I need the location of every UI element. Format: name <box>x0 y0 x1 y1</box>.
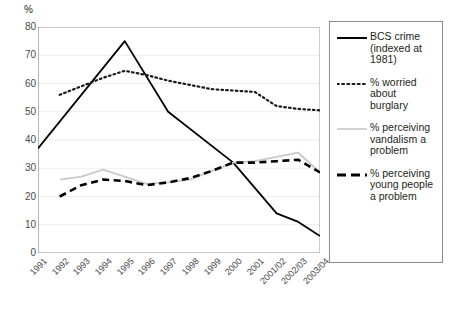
y-axis-tick: 20 <box>14 191 36 202</box>
grey-line-swatch <box>337 122 367 135</box>
legend-item[interactable]: BCS crime (indexed at 1981) <box>337 31 436 66</box>
x-axis-tick-labels: 1991199219931994199519961997199819992000… <box>38 256 320 326</box>
dotted-line-swatch <box>337 77 367 90</box>
plot-area <box>38 27 320 253</box>
x-axis-tick: 1992 <box>50 256 71 277</box>
legend-item[interactable]: % perceiving young people a problem <box>337 168 436 203</box>
y-axis-tick: 80 <box>14 21 36 32</box>
x-axis-tick: 1994 <box>93 256 114 277</box>
series-line <box>60 71 320 111</box>
legend-item[interactable]: % perceiving vandalism a problem <box>337 122 436 157</box>
y-axis-tick-labels: 80706050403020100 <box>12 0 36 331</box>
y-axis-tick: 10 <box>14 219 36 230</box>
x-axis-tick: 1993 <box>71 256 92 277</box>
legend-item-label: % perceiving vandalism a problem <box>370 122 436 157</box>
x-axis-tick: 1997 <box>158 256 179 277</box>
x-axis-tick: 1995 <box>115 256 136 277</box>
legend-item-label: % worried about burglary <box>370 77 436 112</box>
x-axis-tick: 1998 <box>180 256 201 277</box>
y-axis-tick: 30 <box>14 162 36 173</box>
y-axis-tick: 40 <box>14 134 36 145</box>
x-axis-tick: 1999 <box>201 256 222 277</box>
solid-line-swatch <box>337 31 367 44</box>
legend-item-label: % perceiving young people a problem <box>370 168 436 203</box>
line-chart: % 80706050403020100 19911992199319941995… <box>0 0 452 331</box>
x-axis-tick: 1996 <box>136 256 157 277</box>
y-axis-tick: 50 <box>14 106 36 117</box>
series-line <box>60 160 320 197</box>
y-axis-tick: 0 <box>14 247 36 258</box>
legend-item-label: BCS crime (indexed at 1981) <box>370 31 436 66</box>
y-axis-tick: 70 <box>14 49 36 60</box>
y-axis-tick: 60 <box>14 78 36 89</box>
chart-legend: BCS crime (indexed at 1981)% worried abo… <box>329 21 443 263</box>
x-axis-tick: 2000 <box>223 256 244 277</box>
legend-item[interactable]: % worried about burglary <box>337 77 436 112</box>
dashed-line-swatch <box>337 168 367 181</box>
series-line <box>38 41 320 236</box>
